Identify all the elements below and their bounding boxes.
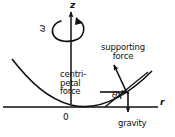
- physics-diagram: supporting force centri- petal force gra…: [0, 0, 175, 137]
- centripetal-force-label: centri- petal force: [60, 70, 86, 96]
- origin-label: 0: [63, 113, 69, 122]
- diagram-canvas: [0, 0, 175, 137]
- rotation-arc: [52, 21, 83, 41]
- supporting-force-arrow: [114, 65, 127, 93]
- theta-angle-label: θ: [112, 91, 117, 100]
- r-axis-label: r: [160, 98, 164, 107]
- gravity-label: gravity: [118, 119, 146, 128]
- supporting-force-label: supporting force: [88, 43, 158, 60]
- omega-label: ω: [38, 25, 47, 32]
- z-axis-label: z: [70, 1, 75, 10]
- particle-point: [127, 92, 130, 95]
